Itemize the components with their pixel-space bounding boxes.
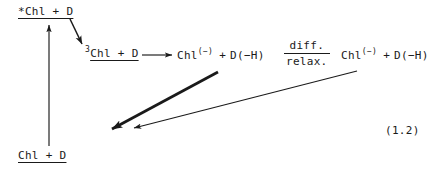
radical-pair-2-charge: (−)	[362, 47, 377, 56]
condition-diffusion-relaxation: diff. relax.	[284, 40, 330, 67]
condition-denominator: relax.	[284, 55, 330, 68]
reaction-scheme-figure: *Chl + D 3Chl + D Chl(−)+D(−H) diff. rel…	[0, 0, 448, 177]
radical-pair-1-charge: (−)	[198, 47, 213, 56]
equation-number: (1.2)	[385, 124, 420, 137]
condition-numerator: diff.	[284, 40, 330, 53]
radical-pair-1-chl: Chl	[177, 49, 198, 62]
excited-to-triplet-arrow	[70, 19, 82, 44]
triplet-label: Chl + D	[90, 47, 138, 60]
radical-pair-2-plus: +	[383, 49, 390, 62]
radical-pair-1-donor: D(−H)	[230, 49, 265, 62]
species-radical-pair-1: Chl(−)+D(−H)	[177, 50, 265, 62]
species-triplet: 3Chl + D	[85, 48, 139, 60]
radical-pair-2-chl: Chl	[341, 49, 362, 62]
species-radical-pair-2: Chl(−)+D(−H)	[341, 50, 429, 62]
species-excited-singlet: *Chl + D	[18, 6, 73, 18]
arrow-layer	[0, 0, 448, 177]
radical-pair-2-donor: D(−H)	[394, 49, 429, 62]
radical-pair-1-plus: +	[219, 49, 226, 62]
condition-rule	[284, 53, 330, 54]
species-ground-state: Chl + D	[18, 150, 66, 162]
